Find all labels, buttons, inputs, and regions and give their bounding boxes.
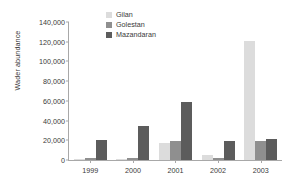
legend-item-gilan[interactable]: Gilan xyxy=(106,10,156,19)
bar-group: 2001 xyxy=(154,22,197,160)
bar-golestan-2001[interactable] xyxy=(170,141,181,160)
x-axis-tick-mark xyxy=(133,160,134,163)
y-axis-title: Wader abundance xyxy=(13,6,22,116)
bar-mazandaran-2003[interactable] xyxy=(266,139,277,160)
bar-gilan-2003[interactable] xyxy=(244,41,255,160)
bar-group: 1999 xyxy=(69,22,112,160)
x-axis-tick-mark xyxy=(175,160,176,163)
bar-golestan-2003[interactable] xyxy=(255,141,266,160)
bar-gilan-2001[interactable] xyxy=(159,143,170,160)
x-axis-tick-mark xyxy=(261,160,262,163)
legend-label: Gilan xyxy=(116,10,133,19)
bar-mazandaran-2000[interactable] xyxy=(138,126,149,160)
wader-abundance-bar-chart: Wader abundance GilanGolestanMazandaran … xyxy=(0,0,287,183)
bar-gilan-2000[interactable] xyxy=(116,159,127,160)
bar-gilan-2002[interactable] xyxy=(202,155,213,160)
x-axis-tick-mark xyxy=(218,160,219,163)
bar-gilan-1999[interactable] xyxy=(74,159,85,160)
x-axis-tick-label: 2003 xyxy=(231,166,287,175)
y-axis-tick-label: 80,000 xyxy=(43,77,65,86)
bar-group: 2003 xyxy=(239,22,282,160)
bar-mazandaran-2001[interactable] xyxy=(181,102,192,160)
legend-swatch-icon xyxy=(106,12,112,18)
y-axis-tick-label: 20,000 xyxy=(43,136,65,145)
x-axis-tick-mark xyxy=(90,160,91,163)
y-axis-tick-label: 120,000 xyxy=(39,37,65,46)
bar-group: 2000 xyxy=(112,22,155,160)
y-axis-tick-label: 140,000 xyxy=(39,18,65,27)
plot-area: 020,00040,00060,00080,000100,000120,0001… xyxy=(68,22,282,161)
y-axis-tick-label: 40,000 xyxy=(43,116,65,125)
y-axis-tick-label: 60,000 xyxy=(43,96,65,105)
bar-mazandaran-2002[interactable] xyxy=(224,141,235,160)
y-axis-tick-label: 0 xyxy=(61,156,65,165)
y-axis-tick-label: 100,000 xyxy=(39,57,65,66)
bar-group: 2002 xyxy=(197,22,240,160)
bar-mazandaran-1999[interactable] xyxy=(96,140,107,160)
